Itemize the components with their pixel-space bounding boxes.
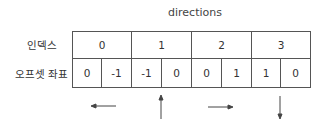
arrow-left-icon (91, 104, 116, 108)
arrow-down-icon (278, 96, 282, 119)
arrow-right-icon (208, 105, 233, 109)
direction-arrows (0, 0, 329, 133)
arrow-up-icon (159, 95, 163, 119)
